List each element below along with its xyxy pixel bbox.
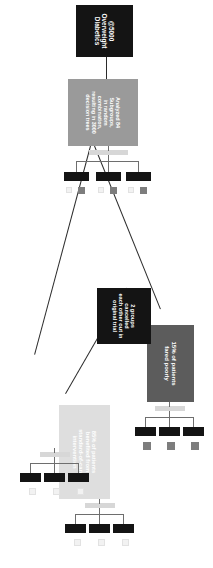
node-poor-line2: fared poorly: [164, 346, 171, 381]
node-method-line1: Analyzed 84 Subgroups,: [109, 82, 121, 143]
leaf-chip-faint: [53, 488, 60, 495]
node-cancelled-line2: each other out in: [118, 293, 124, 338]
leaf-chip-faint: [98, 539, 105, 546]
leaf-chip-faint: [77, 488, 84, 495]
connector-branch-poor-2: [169, 417, 170, 427]
leaf-chip: [167, 442, 175, 450]
leaf-chip-faint: [128, 187, 134, 193]
leaf-node[interactable]: [135, 427, 156, 436]
leaf-chip-faint: [29, 488, 36, 495]
connector-branch-method-2: [108, 161, 109, 172]
leaf-node[interactable]: [68, 473, 89, 482]
node-method[interactable]: Analyzed 84 Subgroups, in random combina…: [68, 79, 138, 146]
connector-bar-benefit-lower: [40, 452, 70, 457]
leaf-chip-faint: [66, 187, 72, 193]
connector-branch-benefit-1: [123, 514, 124, 524]
node-poor-outcome[interactable]: 15% of patients fared poorly: [147, 325, 194, 402]
connector-spine-poor: [146, 417, 194, 418]
connector-branch-benefit-4: [78, 463, 79, 473]
node-root-line2: Overweight Diabetics: [94, 8, 108, 54]
node-root-line1: @5000: [108, 21, 115, 41]
connector-bar-poor: [155, 406, 185, 411]
leaf-node[interactable]: [183, 427, 204, 436]
leaf-chip: [78, 187, 85, 194]
leaf-chip-faint: [74, 539, 81, 546]
connector-branch-poor-3: [145, 417, 146, 427]
node-method-line2: in random combination,: [97, 82, 109, 143]
leaf-chip-faint: [98, 187, 104, 193]
edge-root-to-method: [106, 57, 107, 79]
leaf-node[interactable]: [20, 473, 41, 482]
connector-spine-benefit-upper: [76, 514, 124, 515]
node-root[interactable]: @5000 Overweight Diabetics: [76, 5, 133, 57]
leaf-chip: [140, 187, 147, 194]
leaf-chip: [143, 442, 151, 450]
node-cancelled[interactable]: 2 groups cancelled each other out in ori…: [97, 288, 151, 344]
connector-branch-benefit-5: [54, 463, 55, 473]
node-method-line3: resulting in 3000 decision trees: [85, 82, 97, 143]
connector-branch-benefit-2: [99, 514, 100, 524]
diagram-canvas: @5000 Overweight Diabetics Analyzed 84 S…: [0, 0, 213, 568]
node-cancelled-line3: original trial: [112, 300, 118, 332]
connector-stem-benefit-upper: [99, 499, 100, 504]
leaf-node[interactable]: [89, 524, 110, 533]
node-poor-line1: 15% of patients: [171, 341, 178, 385]
node-benefit-line2: benefited from: [85, 432, 91, 472]
connector-spine-benefit-lower: [31, 463, 79, 464]
connector-bar-benefit-upper: [85, 503, 115, 508]
leaf-chip: [110, 187, 117, 194]
connector-stem-method: [108, 146, 109, 151]
leaf-chip: [191, 442, 199, 450]
leaf-chip-faint: [122, 539, 129, 546]
leaf-node[interactable]: [44, 473, 65, 482]
connector-branch-poor-1: [193, 417, 194, 427]
connector-branch-method-1: [138, 161, 139, 172]
edge-method-to-poor: [94, 146, 161, 310]
node-benefit-line1: 85% of patients: [91, 431, 97, 474]
leaf-node[interactable]: [113, 524, 134, 533]
leaf-node[interactable]: [65, 524, 86, 533]
connector-branch-benefit-6: [30, 463, 31, 473]
leaf-node[interactable]: [126, 172, 151, 181]
connector-branch-method-3: [76, 161, 77, 172]
connector-stem-benefit-lower: [54, 448, 55, 453]
connector-stem-poor: [169, 402, 170, 407]
connector-branch-benefit-3: [75, 514, 76, 524]
leaf-node[interactable]: [64, 172, 89, 181]
leaf-node[interactable]: [96, 172, 121, 181]
node-cancelled-line1: 2 groups cancelled: [124, 291, 137, 341]
leaf-node[interactable]: [159, 427, 180, 436]
